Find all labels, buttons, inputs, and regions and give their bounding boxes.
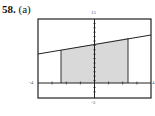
graph	[0, 0, 155, 116]
